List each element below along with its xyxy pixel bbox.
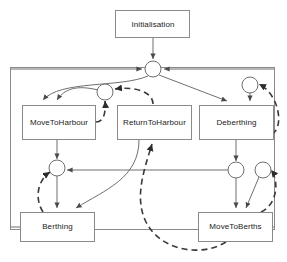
junction-berths-right [255,162,271,178]
edge-berths-right-junction-to-movetoberths [246,177,259,208]
node-berthing[interactable]: Berthing [21,213,95,242]
edge-returntoharbour-to-berthing [76,140,139,208]
outer-frame [11,68,275,230]
node-deberthing-label: Deberthing [216,118,256,127]
node-movetoharbour-label: MoveToHarbour [30,118,88,127]
edge-top-junction-to-deberthing [159,75,227,101]
junction-berthing [49,160,65,176]
edge-returntoharbour-to-harbour-junction [115,88,153,104]
edge-movetoharbour-to-harbour-junction [96,101,105,122]
junction-deberthing [242,77,258,93]
node-initialisation[interactable]: Initialisation [116,11,190,38]
node-berthing-label: Berthing [42,222,73,231]
diagram-canvas: Initialisation MoveToHarbour ReturnToHar… [0,0,287,262]
node-movetoberths[interactable]: MoveToBerths [199,213,273,242]
junction-harbour [97,84,113,100]
node-movetoberths-label: MoveToBerths [209,222,261,231]
node-deberthing[interactable]: Deberthing [200,106,274,140]
node-movetoharbour[interactable]: MoveToHarbour [23,106,96,140]
edge-top-junction-to-movetoharbour [43,76,148,100]
node-returntoharbour-label: ReturnToHarbour [123,118,186,127]
junction-top [145,61,161,77]
edge-berthing-to-berthing-junction [38,172,50,212]
node-initialisation-label: Initialisation [131,20,174,29]
node-returntoharbour[interactable]: ReturnToHarbour [118,106,192,140]
state-machine-diagram: Initialisation MoveToHarbour ReturnToHar… [0,0,287,262]
junction-berths-left [228,162,244,178]
